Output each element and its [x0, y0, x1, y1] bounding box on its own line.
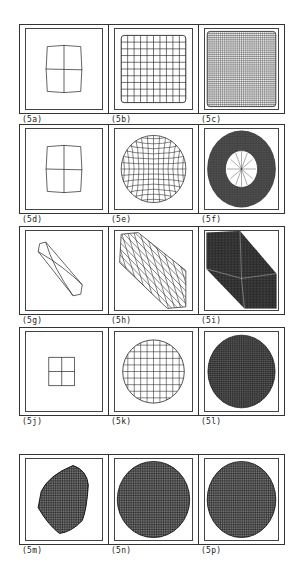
panel-5f	[198, 124, 285, 214]
mesh-plot-5b	[115, 29, 192, 109]
panel-frame	[25, 458, 103, 541]
panel-frame	[204, 331, 279, 412]
panel-label: (5e)	[111, 215, 131, 224]
panel-5h	[108, 226, 199, 315]
panel-5j	[19, 327, 109, 416]
panel-frame	[25, 230, 103, 311]
panel-frame	[25, 331, 103, 412]
panel-frame	[114, 331, 193, 412]
panel-frame	[25, 28, 103, 110]
mesh-plot-5c	[205, 29, 278, 109]
panel-label: (5p)	[201, 546, 221, 555]
panel-5g	[19, 226, 109, 315]
panel-label: (5i)	[201, 316, 221, 325]
panel-label: (5k)	[111, 417, 131, 426]
panel-label: (5b)	[111, 115, 131, 124]
panel-frame	[204, 128, 279, 210]
panel-5m	[19, 454, 109, 545]
panel-label: (5j)	[22, 417, 42, 426]
panel-5c	[198, 24, 285, 114]
panel-frame	[25, 128, 103, 210]
panel-frame	[114, 28, 193, 110]
panel-label: (5a)	[22, 115, 42, 124]
panel-5k	[108, 327, 199, 416]
panel-label: (5h)	[111, 316, 131, 325]
panel-label: (5l)	[201, 417, 221, 426]
panel-5p	[198, 454, 285, 545]
panel-frame	[204, 230, 279, 311]
mesh-plot-5g	[26, 231, 102, 310]
panel-label: (5n)	[111, 546, 131, 555]
mesh-plot-5f	[205, 129, 278, 209]
mesh-plot-5j	[26, 332, 102, 411]
panel-label: (5d)	[22, 215, 42, 224]
panel-frame	[114, 230, 193, 311]
panel-5i	[198, 226, 285, 315]
panel-frame	[204, 28, 279, 110]
mesh-plot-5a	[26, 29, 102, 109]
mesh-plot-5m	[26, 459, 102, 540]
panel-5n	[108, 454, 199, 545]
panel-frame	[204, 458, 279, 541]
mesh-plot-5d	[26, 129, 102, 209]
mesh-plot-5k	[115, 332, 192, 411]
panel-5a	[19, 24, 109, 114]
mesh-plot-5e	[115, 129, 192, 209]
mesh-plot-5h	[115, 231, 192, 310]
panel-label: (5f)	[201, 215, 221, 224]
panel-frame	[114, 458, 193, 541]
mesh-plot-5n	[115, 459, 192, 540]
panel-label: (5m)	[22, 546, 42, 555]
panel-5d	[19, 124, 109, 214]
panel-5b	[108, 24, 199, 114]
mesh-plot-5i	[205, 231, 278, 310]
panel-5l	[198, 327, 285, 416]
mesh-plot-5p	[205, 459, 278, 540]
panel-label: (5c)	[201, 115, 221, 124]
mesh-plot-5l	[205, 332, 278, 411]
panel-frame	[114, 128, 193, 210]
panel-5e	[108, 124, 199, 214]
panel-label: (5g)	[22, 316, 42, 325]
